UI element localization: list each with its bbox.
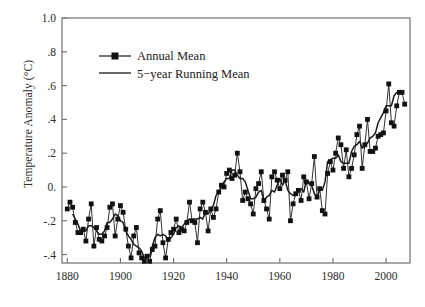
annual-mean-marker [113,234,118,239]
y-tick-label: -.2 [44,215,57,227]
annual-mean-marker [102,234,107,239]
annual-mean-marker [65,207,70,212]
annual-mean-marker [365,117,370,122]
annual-mean-marker [232,173,237,178]
annual-mean-marker [352,152,357,157]
annual-mean-marker [211,215,216,220]
annual-mean-marker [283,178,288,183]
annual-mean-marker [86,217,91,222]
annual-mean-marker [134,225,139,230]
annual-mean-marker [362,142,367,147]
annual-mean-marker [174,217,179,222]
annual-mean-marker [166,237,171,242]
annual-mean-marker [208,207,213,212]
annual-mean-marker [248,201,253,206]
annual-mean-marker [145,254,150,259]
annual-mean-marker [123,227,128,232]
annual-mean-marker [299,198,304,203]
annual-mean-marker [158,208,163,213]
annual-mean-marker [264,207,269,212]
annual-mean-marker [161,240,166,245]
annual-mean-marker [227,168,232,173]
annual-mean-marker [272,169,277,174]
annual-mean-marker [187,200,192,205]
annual-mean-marker [251,212,256,217]
annual-mean-marker [307,196,312,201]
annual-mean-marker [315,195,320,200]
annual-mean-marker [129,256,134,261]
y-tick-label: .4 [47,113,56,125]
x-tick-label: 1920 [162,270,185,282]
annual-mean-marker [81,227,86,232]
annual-mean-marker [121,210,126,215]
annual-mean-marker [312,154,317,159]
annual-mean-marker [68,200,73,205]
y-tick-label: -.4 [44,249,57,261]
annual-mean-marker [131,234,136,239]
legend-label-annual-mean: Annual Mean [137,49,206,63]
annual-mean-marker [198,207,203,212]
annual-mean-marker [304,180,309,185]
annual-mean-marker [137,250,142,255]
annual-mean-marker [110,201,115,206]
annual-mean-marker [317,186,322,191]
annual-mean-marker [73,220,78,225]
y-tick-label: .2 [47,147,56,159]
annual-mean-marker [200,200,205,205]
annual-mean-marker [203,210,208,215]
annual-mean-marker [291,201,296,206]
annual-mean-marker [280,173,285,178]
annual-mean-marker [328,159,333,164]
annual-mean-marker [339,142,344,147]
y-tick-label: .6 [47,80,56,92]
annual-mean-marker [94,225,99,230]
plot-canvas: 1.0.8.6.4.20.-.2-.4 18801900192019401960… [0,0,425,307]
annual-mean-marker [336,136,341,141]
annual-mean-marker [275,178,280,183]
annual-mean-marker [153,244,158,249]
annual-mean-marker [84,239,89,244]
x-tick-label: 1940 [215,270,238,282]
annual-mean-marker [384,109,389,114]
annual-mean-marker [331,168,336,173]
annual-mean-marker [182,229,187,234]
annual-mean-marker [259,169,264,174]
annual-mean-marker [155,217,160,222]
annual-mean-marker [386,82,391,87]
annual-mean-marker [333,151,338,156]
y-axis-ticks: 1.0.8.6.4.20.-.2-.4 [42,12,67,261]
annual-mean-marker [256,181,261,186]
annual-mean-marker [288,218,293,223]
annual-mean-marker [192,220,197,225]
x-tick-label: 1880 [56,270,79,282]
y-tick-label: 1.0 [42,12,57,24]
annual-mean-marker [206,229,211,234]
temperature-anomaly-chart: Temperature Anomaly (°C) 1.0.8.6.4.20.-.… [0,0,425,307]
annual-mean-marker [400,90,405,95]
x-tick-label: 2000 [375,270,398,282]
annual-mean-marker [394,103,399,108]
annual-mean-marker [296,188,301,193]
x-axis-ticks: 1880190019201940196019802000 [56,258,398,282]
annual-mean-marker [357,124,362,129]
annual-mean-marker [91,244,96,249]
annual-mean-marker [222,185,227,190]
annual-mean-marker [115,217,120,222]
y-tick-label: .8 [47,46,56,58]
annual-mean-marker [195,240,200,245]
annual-mean-marker [325,171,330,176]
annual-mean-marker [354,132,359,137]
legend-label-running-mean: 5−year Running Mean [137,67,250,81]
legend-marker-annual-mean [112,53,119,60]
annual-mean-marker [381,131,386,136]
annual-mean-marker [240,198,245,203]
annual-mean-marker [118,203,123,208]
x-tick-label: 1980 [321,270,344,282]
y-tick-label: 0. [47,181,56,193]
x-tick-label: 1900 [109,270,132,282]
annual-mean-marker [373,146,378,151]
annual-mean-marker [323,212,328,217]
annual-mean-marker [341,166,346,171]
annual-mean-marker [261,198,266,203]
annual-mean-marker [301,174,306,179]
